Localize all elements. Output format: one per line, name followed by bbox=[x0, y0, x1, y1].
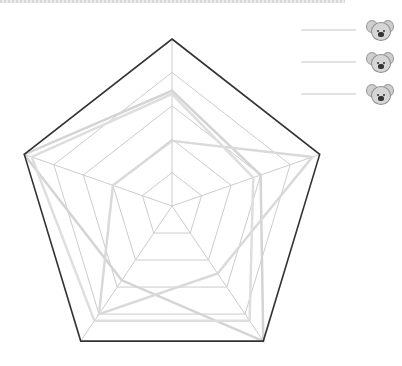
legend-item[interactable] bbox=[284, 78, 394, 110]
koala-icon bbox=[366, 19, 394, 41]
koala-icon bbox=[366, 51, 394, 73]
legend-line bbox=[301, 29, 356, 31]
radar-grid bbox=[24, 39, 319, 341]
koala-icon bbox=[366, 83, 394, 105]
radar-series bbox=[24, 91, 312, 341]
legend bbox=[284, 14, 394, 110]
legend-item[interactable] bbox=[284, 46, 394, 78]
legend-line bbox=[301, 61, 356, 63]
series-polygon bbox=[99, 141, 312, 314]
legend-line bbox=[301, 93, 356, 95]
legend-item[interactable] bbox=[284, 14, 394, 46]
